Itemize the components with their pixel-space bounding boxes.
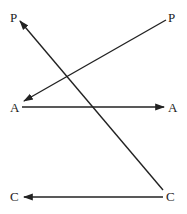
label-p-left: P xyxy=(10,10,17,25)
label-p-right: P xyxy=(168,10,175,25)
label-c-left: C xyxy=(10,189,19,204)
arrow-diagram: P P A A C C xyxy=(0,0,187,214)
arrow-c-right-to-p-left xyxy=(20,21,163,190)
label-c-right: C xyxy=(166,189,175,204)
label-a-right: A xyxy=(168,100,178,115)
label-a-left: A xyxy=(10,100,20,115)
arrow-p-right-to-a-left xyxy=(24,20,166,101)
